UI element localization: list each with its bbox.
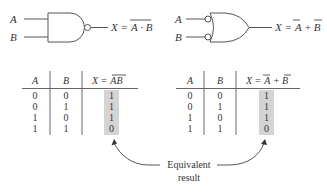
left-header-x: X =AB: [91, 75, 123, 86]
nor-input-b-label: B: [175, 31, 182, 43]
right-result-cell: 1: [264, 101, 269, 112]
right-result-cell: 0: [264, 123, 269, 134]
input-a-bubble-icon: [205, 16, 211, 22]
left-header-x-label: X =: [91, 75, 107, 86]
nand-gate: A B X =A · B: [9, 13, 153, 43]
nand-truth-table: A B X =AB 0 0 1 0 1 1 1 0 1 1 1 0: [22, 71, 138, 135]
right-arrowhead-icon: [261, 139, 267, 145]
right-header-a-expr: A: [263, 75, 271, 86]
left-header-b: B: [63, 75, 69, 86]
or-gate-body-icon: [210, 13, 249, 42]
left-cell: 1: [33, 112, 38, 123]
nor-expr-b: B: [314, 21, 321, 33]
equivalent-result-annotation: Equivalent result: [112, 139, 268, 183]
left-result-cell: 1: [109, 101, 114, 112]
nand-output-equation: X =A · B: [110, 21, 153, 33]
left-cell: 0: [64, 112, 69, 123]
right-cell: 1: [218, 123, 223, 134]
left-cell: 0: [33, 101, 38, 112]
left-arrowhead-icon: [112, 139, 118, 146]
right-header-b-expr: B: [282, 75, 288, 86]
left-arrow-curve: [114, 143, 160, 165]
inversion-bubble-icon: [85, 25, 91, 31]
and-gate-body-icon: [48, 13, 84, 42]
nor-expr-a: A: [294, 21, 302, 33]
right-cell: 0: [188, 90, 193, 101]
left-result-cell: 0: [109, 123, 114, 134]
nor-input-a-label: A: [174, 13, 182, 25]
left-result-cell: 1: [109, 112, 114, 123]
left-cell: 1: [64, 101, 69, 112]
nand-input-a-label: A: [9, 13, 17, 25]
diagram-canvas: A B X =A · B A B X =A+B A B X =AB 0 0 1: [0, 0, 327, 192]
right-result-cell: 1: [264, 90, 269, 101]
left-cell: 0: [64, 90, 69, 101]
nor-output-label: X =: [274, 21, 292, 33]
nand-output-label: X =: [110, 21, 128, 33]
left-cell: 1: [33, 123, 38, 134]
right-result-cell: 1: [264, 112, 269, 123]
annotation-line-2: result: [178, 172, 200, 183]
right-header-plus: +: [273, 75, 279, 86]
right-cell: 1: [218, 101, 223, 112]
input-b-bubble-icon: [205, 34, 211, 40]
negative-or-gate: A B X =A+B: [174, 13, 322, 43]
right-cell: 0: [218, 112, 223, 123]
right-header-x-label: X =: [245, 75, 261, 86]
left-cell: 0: [33, 90, 38, 101]
right-cell: 1: [188, 123, 193, 134]
annotation-line-1: Equivalent: [167, 159, 211, 170]
right-header-b: B: [217, 75, 223, 86]
right-header-x: X =A+B: [245, 75, 288, 86]
right-cell: 1: [188, 112, 193, 123]
negative-or-truth-table: A B X =A+B 0 0 1 0 1 1 1 0 1 1 1 0: [176, 71, 300, 135]
left-result-cell: 1: [109, 90, 114, 101]
nor-expr-plus: +: [305, 21, 311, 33]
left-cell: 1: [64, 123, 69, 134]
left-header-a: A: [31, 75, 39, 86]
nand-input-b-label: B: [10, 31, 17, 43]
left-header-expr: AB: [109, 75, 122, 86]
right-cell: 0: [218, 90, 223, 101]
nor-output-equation: X =A+B: [274, 21, 321, 33]
right-arrow-curve: [217, 143, 264, 165]
right-header-a: A: [186, 75, 194, 86]
nand-expression: A · B: [130, 21, 153, 33]
right-cell: 0: [188, 101, 193, 112]
